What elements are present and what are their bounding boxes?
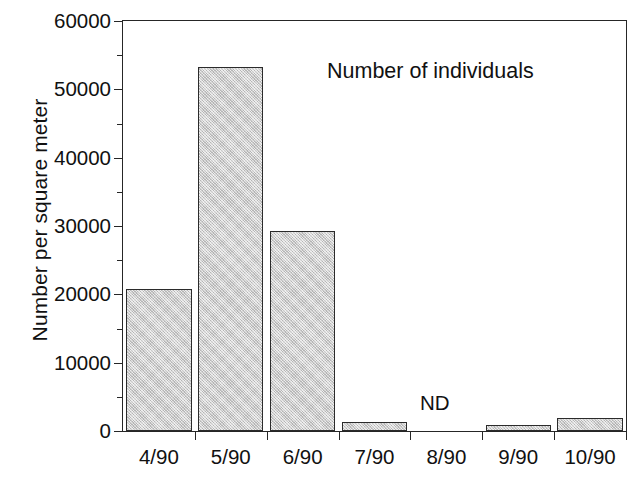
x-tick-label: 7/90 <box>355 445 395 469</box>
bar <box>126 289 191 431</box>
x-tick-mark <box>482 431 483 440</box>
x-tick-label: 8/90 <box>426 445 466 469</box>
y-tick-label: 30000 <box>54 214 111 238</box>
bar <box>486 425 551 431</box>
y-tick-mark <box>114 431 123 432</box>
y-tick-label: 10000 <box>54 351 111 375</box>
x-tick-label: 4/90 <box>139 445 179 469</box>
y-tick-mark <box>114 226 123 227</box>
y-minor-tick <box>117 329 123 330</box>
chart-annotation: Number of individuals <box>327 59 534 84</box>
y-minor-tick <box>117 397 123 398</box>
bar <box>270 231 335 431</box>
y-tick-mark <box>114 294 123 295</box>
figure: Number per square meter Number of indivi… <box>0 0 640 488</box>
y-minor-tick <box>117 124 123 125</box>
y-minor-tick <box>117 55 123 56</box>
x-tick-mark <box>410 431 411 440</box>
y-tick-label: 60000 <box>54 9 111 33</box>
plot-area: Number of individuals ND 010000200003000… <box>122 20 627 432</box>
x-tick-mark <box>195 431 196 440</box>
x-tick-mark <box>267 431 268 440</box>
bar <box>342 422 407 431</box>
y-tick-label: 0 <box>100 419 111 443</box>
y-tick-mark <box>114 158 123 159</box>
y-tick-mark <box>114 89 123 90</box>
x-tick-mark <box>339 431 340 440</box>
x-tick-label: 10/90 <box>564 445 615 469</box>
y-minor-tick <box>117 260 123 261</box>
x-tick-label: 9/90 <box>498 445 538 469</box>
x-tick-mark <box>626 431 627 440</box>
y-tick-mark <box>114 21 123 22</box>
y-axis-title: Number per square meter <box>28 40 52 400</box>
x-tick-label: 6/90 <box>283 445 323 469</box>
y-tick-label: 50000 <box>54 77 111 101</box>
y-minor-tick <box>117 192 123 193</box>
y-tick-label: 20000 <box>54 282 111 306</box>
x-tick-label: 5/90 <box>211 445 251 469</box>
y-tick-label: 40000 <box>54 146 111 170</box>
x-tick-mark <box>554 431 555 440</box>
bar <box>557 418 622 431</box>
nd-annotation: ND <box>420 391 450 415</box>
y-tick-mark <box>114 363 123 364</box>
bar <box>198 67 263 431</box>
